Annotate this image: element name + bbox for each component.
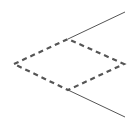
upper-solid-line [68,12,125,39]
lower-solid-line [68,90,125,117]
diagram-canvas [0,0,138,124]
dashed-diamond [14,39,124,90]
